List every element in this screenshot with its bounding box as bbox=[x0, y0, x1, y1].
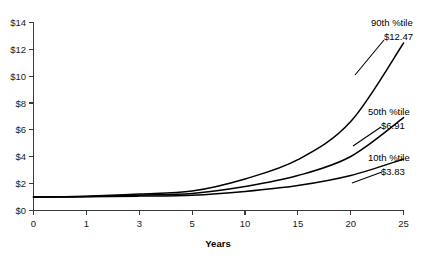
annotation-label-50th: 50th %tile bbox=[368, 106, 410, 117]
y-tick-label-2: $4 bbox=[15, 151, 26, 162]
y-tick-label-3: $6 bbox=[15, 124, 26, 135]
y-tick-label-7: $14 bbox=[10, 17, 26, 28]
chart-container: $0 $2 $4 $6 $8 $10 $12 $14 0 1 3 bbox=[0, 0, 436, 266]
annotation-value-10th: $3.83 bbox=[381, 166, 405, 177]
x-tick-label-0: 0 bbox=[31, 218, 36, 229]
y-tick-label-6: $12 bbox=[10, 44, 26, 55]
x-tick-label-6: 20 bbox=[345, 218, 356, 229]
y-axis-ticks: $0 $2 $4 $6 $8 $10 $12 $14 bbox=[10, 17, 33, 216]
leader-line-90th bbox=[355, 40, 384, 75]
annotation-value-50th: $6.91 bbox=[381, 120, 405, 131]
y-tick-label-1: $2 bbox=[15, 178, 26, 189]
series-line-90th bbox=[34, 43, 404, 197]
series-lines bbox=[34, 43, 404, 197]
x-tick-label-2: 3 bbox=[137, 218, 142, 229]
annotation-label-10th: 10th %tile bbox=[368, 152, 410, 163]
x-tick-label-5: 15 bbox=[293, 218, 304, 229]
x-axis-ticks: 0 1 3 5 10 15 20 25 bbox=[31, 211, 409, 230]
x-axis-title: Years bbox=[205, 238, 230, 249]
x-tick-label-7: 25 bbox=[398, 218, 409, 229]
x-tick-label-4: 10 bbox=[240, 218, 251, 229]
x-tick-label-3: 5 bbox=[189, 218, 194, 229]
series-line-10th bbox=[34, 159, 404, 197]
series-line-50th bbox=[34, 118, 404, 197]
y-tick-label-4: $8 bbox=[15, 98, 26, 109]
annotation-90th: 90th %tile $12.47 bbox=[371, 17, 413, 42]
y-tick-label-0: $0 bbox=[15, 205, 26, 216]
x-tick-label-1: 1 bbox=[84, 218, 89, 229]
annotation-label-90th: 90th %tile bbox=[371, 17, 413, 28]
percentile-growth-chart: $0 $2 $4 $6 $8 $10 $12 $14 0 1 3 bbox=[0, 0, 436, 266]
leader-line-50th bbox=[353, 127, 381, 146]
y-tick-label-5: $10 bbox=[10, 71, 26, 82]
annotation-value-90th: $12.47 bbox=[384, 31, 413, 42]
